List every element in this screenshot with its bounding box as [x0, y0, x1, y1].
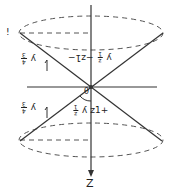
label-den: 3	[22, 52, 26, 58]
label-den: 1	[98, 51, 102, 57]
z-axis-label: Z	[86, 178, 94, 189]
lower-arrow-icon	[45, 107, 47, 118]
label-prefix: y	[31, 103, 36, 113]
label-suffix: z1+	[90, 105, 108, 115]
angle-arc	[80, 96, 91, 101]
label-num: 4	[21, 58, 27, 65]
double-cone-diagram	[0, 0, 173, 192]
upper-center-label: y z1 −z1−	[68, 51, 112, 64]
label-den: 3	[22, 101, 26, 107]
label-num: 4	[21, 107, 27, 114]
label-suffix: −z1−	[68, 53, 94, 63]
lower-center-label: y z1 z1+	[72, 104, 108, 117]
label-prefix: y	[82, 106, 87, 116]
angle-label: θ	[84, 88, 89, 96]
label-prefix: y	[31, 54, 36, 64]
upper-left-label: y 43	[20, 52, 36, 65]
apex-point	[89, 85, 93, 89]
lower-left-label: y 43	[20, 101, 36, 114]
label-num: z	[73, 110, 78, 117]
upper-arrow-icon	[45, 60, 47, 71]
label-prefix: y	[106, 53, 111, 63]
label-num: z	[97, 57, 102, 64]
top-left-mark: !	[6, 28, 10, 37]
label-den: 1	[74, 104, 78, 110]
z-axis-arrow-icon	[88, 170, 94, 177]
